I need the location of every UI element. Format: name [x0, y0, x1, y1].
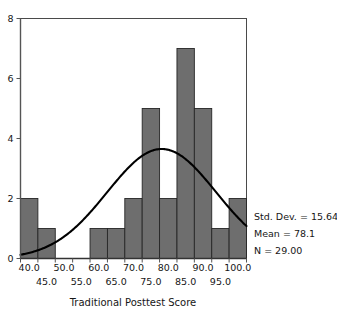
- x-axis-tick-label: 55.0: [71, 276, 92, 287]
- mean-annotation: Mean = 78.1: [254, 228, 315, 239]
- y-axis-tick-label: 6: [7, 73, 13, 84]
- histogram-bar: [107, 229, 124, 259]
- y-axis-tick-label: 8: [7, 13, 13, 24]
- x-axis-tick-label: 95.0: [210, 276, 231, 287]
- x-axis-tick-label: 40.0: [19, 262, 40, 273]
- histogram-bar: [125, 199, 142, 259]
- x-axis-title: Traditional Posttest Score: [69, 297, 197, 308]
- x-axis-tick-label: 70.0: [123, 262, 144, 273]
- x-axis-tick-label: 75.0: [140, 276, 161, 287]
- histogram-bar: [160, 199, 177, 259]
- n-annotation: N = 29.00: [254, 245, 302, 256]
- x-axis-tick-label: 80.0: [158, 262, 179, 273]
- x-axis-tick-label: 65.0: [106, 276, 127, 287]
- histogram-bar: [21, 199, 38, 259]
- histogram-bar: [212, 229, 229, 259]
- y-axis-tick-label: 2: [7, 193, 13, 204]
- y-axis-tick-label: 0: [7, 253, 13, 264]
- x-axis-tick-label: 60.0: [88, 262, 109, 273]
- x-axis-tick-label: 50.0: [53, 262, 74, 273]
- histogram-plot: 40.050.060.070.080.090.0100.045.055.065.…: [0, 0, 337, 313]
- x-axis-tick-label: 45.0: [36, 276, 57, 287]
- x-axis-tick-labels: 40.050.060.070.080.090.0100.045.055.065.…: [19, 262, 252, 287]
- histogram-chart: 40.050.060.070.080.090.0100.045.055.065.…: [0, 0, 337, 313]
- histogram-bar: [142, 109, 159, 259]
- y-axis-tick-labels: 02468: [7, 13, 13, 264]
- histogram-bar: [177, 49, 194, 259]
- histogram-bar: [90, 229, 107, 259]
- x-axis-tick-label: 85.0: [175, 276, 196, 287]
- histogram-bar: [229, 199, 246, 259]
- std-dev-annotation: Std. Dev. = 15.64: [254, 211, 337, 222]
- y-axis-tick-label: 4: [7, 133, 13, 144]
- x-axis-tick-label: 90.0: [192, 262, 213, 273]
- x-axis-tick-label: 100.0: [224, 262, 251, 273]
